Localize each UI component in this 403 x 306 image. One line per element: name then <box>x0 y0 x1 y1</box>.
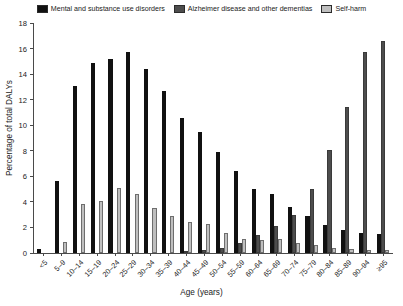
bar-2 <box>242 239 246 253</box>
x-tick-mark <box>258 253 259 256</box>
x-tick-mark <box>186 253 187 256</box>
bar-2 <box>296 243 300 253</box>
bar-groups <box>34 23 392 253</box>
legend-swatch-self-harm <box>321 5 332 13</box>
x-tick-label: <5 <box>37 258 49 270</box>
bar-2 <box>188 222 192 253</box>
y-tick-label: 14 <box>19 70 27 79</box>
bar-0 <box>180 118 184 253</box>
x-tick-mark <box>97 253 98 256</box>
x-axis-labels: <55–910–1415–1920–2425–2930–3435–3940–44… <box>34 257 392 287</box>
x-tick-mark <box>347 253 348 256</box>
chart-figure: Mental and substance use disorders Alzhe… <box>0 0 403 306</box>
bar-1 <box>345 107 349 253</box>
bar-2 <box>63 242 67 254</box>
x-tick-mark <box>222 253 223 256</box>
bar-group <box>141 23 159 253</box>
bar-0 <box>198 132 202 253</box>
legend-item-mental: Mental and substance use disorders <box>37 5 165 13</box>
bar-2 <box>260 240 264 253</box>
bar-0 <box>91 63 95 253</box>
bar-group <box>356 23 374 253</box>
legend-swatch-mental <box>37 5 48 13</box>
x-tick-mark <box>294 253 295 256</box>
bar-2 <box>81 204 85 253</box>
legend-swatch-alzheimer <box>174 5 185 13</box>
bar-0 <box>73 86 77 253</box>
y-tick-label: 8 <box>23 146 27 155</box>
x-tick-mark <box>43 253 44 256</box>
y-tick-label: 0 <box>23 249 27 258</box>
bar-0 <box>108 59 112 253</box>
bar-group <box>34 23 52 253</box>
bar-0 <box>55 181 59 253</box>
bar-group <box>124 23 142 253</box>
bar-0 <box>126 52 130 253</box>
y-tick-label: 18 <box>19 19 27 28</box>
x-tick-mark <box>240 253 241 256</box>
bar-0 <box>162 91 166 253</box>
bar-2 <box>117 188 121 253</box>
y-tick-label: 6 <box>23 172 27 181</box>
legend-item-alzheimer: Alzheimer disease and other dementias <box>174 5 313 13</box>
x-tick-mark <box>329 253 330 256</box>
bar-group <box>213 23 231 253</box>
bar-2 <box>206 224 210 253</box>
bar-group <box>88 23 106 253</box>
bar-2 <box>278 239 282 253</box>
bar-1 <box>327 150 331 254</box>
x-tick-mark <box>383 253 384 256</box>
x-tick-mark <box>276 253 277 256</box>
x-tick-mark <box>61 253 62 256</box>
chart-legend: Mental and substance use disorders Alzhe… <box>0 2 403 16</box>
x-label-slot: <5 <box>34 257 52 287</box>
y-tick-label: 12 <box>19 95 27 104</box>
y-tick-label: 16 <box>19 44 27 53</box>
bar-2 <box>99 201 103 253</box>
legend-item-self-harm: Self-harm <box>321 5 366 13</box>
bar-0 <box>234 171 238 253</box>
bar-group <box>338 23 356 253</box>
bar-group <box>195 23 213 253</box>
x-tick-mark <box>150 253 151 256</box>
bar-group <box>70 23 88 253</box>
x-tick-mark <box>168 253 169 256</box>
bar-2 <box>152 208 156 253</box>
x-tick-mark <box>115 253 116 256</box>
x-tick-label: ≥95 <box>374 258 389 273</box>
bar-group <box>177 23 195 253</box>
bar-group <box>106 23 124 253</box>
bar-group <box>267 23 285 253</box>
legend-label-alzheimer: Alzheimer disease and other dementias <box>188 5 313 13</box>
x-tick-mark <box>365 253 366 256</box>
x-label-slot: 90–94 <box>356 257 374 287</box>
bar-0 <box>216 152 220 253</box>
legend-label-mental: Mental and substance use disorders <box>51 5 165 13</box>
bar-group <box>374 23 392 253</box>
y-axis-title: Percentage of total DALYs <box>2 28 16 228</box>
bar-group <box>249 23 267 253</box>
x-tick-mark <box>132 253 133 256</box>
bar-2 <box>170 216 174 253</box>
bar-2 <box>314 245 318 253</box>
x-tick-mark <box>204 253 205 256</box>
bar-1 <box>310 189 314 253</box>
bar-group <box>321 23 339 253</box>
bar-2 <box>224 233 228 253</box>
x-tick-mark <box>312 253 313 256</box>
bar-group <box>285 23 303 253</box>
y-tick-label: 4 <box>23 197 27 206</box>
y-tick-label: 10 <box>19 121 27 130</box>
y-tick-label: 2 <box>23 223 27 232</box>
legend-label-self-harm: Self-harm <box>335 5 366 13</box>
bar-group <box>303 23 321 253</box>
bar-group <box>231 23 249 253</box>
y-axis-title-text: Percentage of total DALYs <box>5 80 14 176</box>
x-tick-mark <box>79 253 80 256</box>
x-label-slot: ≥95 <box>374 257 392 287</box>
bar-0 <box>144 69 148 253</box>
bar-group <box>52 23 70 253</box>
x-axis-title: Age (years) <box>0 288 403 297</box>
bar-2 <box>135 194 139 253</box>
bar-1 <box>381 41 385 253</box>
